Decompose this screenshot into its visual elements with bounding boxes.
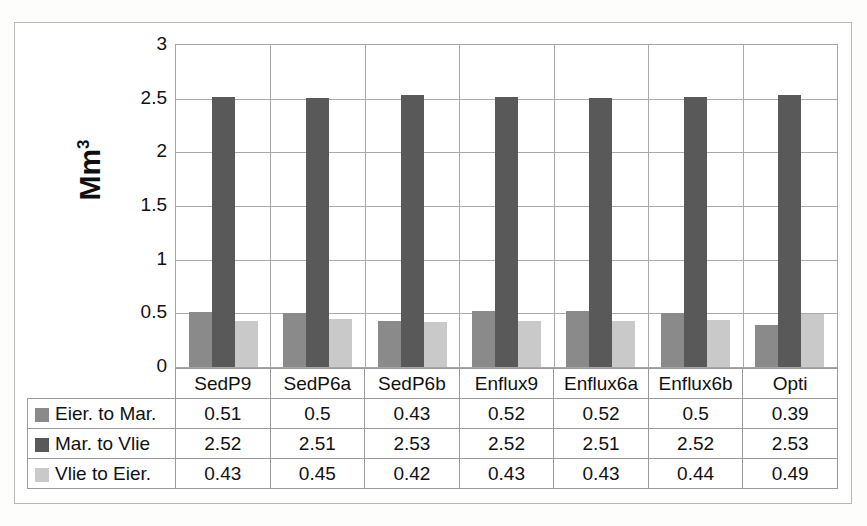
bar-group xyxy=(459,45,553,367)
bar xyxy=(283,313,306,367)
bar xyxy=(589,98,612,367)
table-cell: 0.44 xyxy=(648,459,743,489)
bar xyxy=(684,97,707,367)
bar-group xyxy=(176,45,270,367)
legend-item: Eier. to Mar. xyxy=(28,399,176,429)
y-axis-tick-label: 1 xyxy=(97,248,167,270)
legend-item: Mar. to Vlie xyxy=(28,429,176,459)
table-cell: 0.43 xyxy=(365,399,460,429)
table-cell: 0.43 xyxy=(459,459,554,489)
bar xyxy=(189,312,212,367)
bar-group xyxy=(365,45,459,367)
y-axis-tick-label: 2.5 xyxy=(97,87,167,109)
table-cell: 2.52 xyxy=(648,429,743,459)
table-cell: 2.53 xyxy=(743,429,838,459)
table-column-header: Enflux6a xyxy=(554,369,649,399)
y-axis-tick-label: 2 xyxy=(97,140,167,162)
table-row: Mar. to Vlie2.522.512.532.522.512.522.53 xyxy=(28,429,838,459)
bar xyxy=(612,321,635,367)
table-column-header: Enflux9 xyxy=(459,369,554,399)
bar xyxy=(566,311,589,367)
data-table: SedP9SedP6aSedP6bEnflux9Enflux6aEnflux6b… xyxy=(27,368,838,489)
bar-group xyxy=(554,45,648,367)
data-table-wrapper: SedP9SedP6aSedP6bEnflux9Enflux6aEnflux6b… xyxy=(27,368,838,486)
table-cell: 2.51 xyxy=(554,429,649,459)
table-column-header: Opti xyxy=(743,369,838,399)
bar xyxy=(755,325,778,367)
legend-label: Eier. to Mar. xyxy=(55,403,156,425)
chart-screenshot: Mm3 00.511.522.53 SedP9SedP6aSedP6bEnflu… xyxy=(0,0,867,526)
y-axis-title-superscript: 3 xyxy=(74,139,93,148)
table-cell: 2.53 xyxy=(365,429,460,459)
table-cell: 0.52 xyxy=(459,399,554,429)
table-cell: 2.52 xyxy=(176,429,271,459)
legend-swatch-icon xyxy=(35,438,49,452)
legend-item: Vlie to Eier. xyxy=(28,459,176,489)
bar xyxy=(401,95,424,367)
plot-area xyxy=(175,44,838,368)
table-cell: 0.51 xyxy=(176,399,271,429)
legend-label: Vlie to Eier. xyxy=(55,463,151,485)
table-column-header: SedP9 xyxy=(176,369,271,399)
bar xyxy=(778,95,801,367)
y-axis-tick-label: 1.5 xyxy=(97,194,167,216)
table-row: Eier. to Mar.0.510.50.430.520.520.50.39 xyxy=(28,399,838,429)
bar xyxy=(212,97,235,367)
table-cell: 0.52 xyxy=(554,399,649,429)
table-cell: 0.45 xyxy=(270,459,365,489)
table-cell: 2.51 xyxy=(270,429,365,459)
y-axis-tick-label: 0.5 xyxy=(97,301,167,323)
table-cell: 0.43 xyxy=(176,459,271,489)
table-cell: 0.5 xyxy=(270,399,365,429)
bar xyxy=(378,321,401,367)
table-column-header: SedP6b xyxy=(365,369,460,399)
table-header-row: SedP9SedP6aSedP6bEnflux9Enflux6aEnflux6b… xyxy=(28,369,838,399)
bar xyxy=(801,314,824,367)
table-cell: 0.5 xyxy=(648,399,743,429)
table-cell: 2.52 xyxy=(459,429,554,459)
y-axis-tick-labels: 00.511.522.53 xyxy=(95,44,167,368)
bar-group xyxy=(743,45,837,367)
y-axis-tick-label: 3 xyxy=(97,33,167,55)
legend-swatch-icon xyxy=(35,408,49,422)
table-cell: 0.42 xyxy=(365,459,460,489)
bar xyxy=(424,322,447,367)
table-column-header: SedP6a xyxy=(270,369,365,399)
table-corner-cell xyxy=(28,369,176,399)
legend-swatch-icon xyxy=(35,468,49,482)
table-cell: 0.39 xyxy=(743,399,838,429)
table-cell: 0.49 xyxy=(743,459,838,489)
bar-group xyxy=(648,45,742,367)
bar xyxy=(495,97,518,367)
bar xyxy=(518,321,541,367)
table-row: Vlie to Eier.0.430.450.420.430.430.440.4… xyxy=(28,459,838,489)
table-cell: 0.43 xyxy=(554,459,649,489)
legend-label: Mar. to Vlie xyxy=(55,433,150,455)
bar-group xyxy=(270,45,364,367)
bar-groups xyxy=(176,45,837,367)
bar xyxy=(329,319,352,367)
table-column-header: Enflux6b xyxy=(648,369,743,399)
bar xyxy=(707,320,730,367)
bar xyxy=(661,313,684,367)
bar xyxy=(235,321,258,367)
bar xyxy=(472,311,495,367)
bar xyxy=(306,98,329,367)
